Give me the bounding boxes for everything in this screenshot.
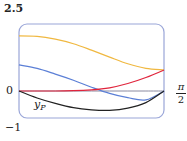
x-tick-numerator: π	[176, 82, 186, 94]
y-tick-2-5: 2.5	[4, 3, 23, 14]
x-tick-pi-over-2: π 2	[176, 82, 186, 105]
curve-label-yp: yP	[34, 99, 46, 112]
y-tick-0: 0	[6, 85, 13, 96]
y-tick-minus-1: −1	[5, 122, 21, 133]
curve-label-sub: P	[40, 103, 45, 112]
series-red-line	[19, 70, 164, 91]
series-blue-line	[19, 65, 164, 100]
chart-plot	[0, 0, 187, 141]
x-tick-denominator: 2	[176, 94, 186, 105]
series-yellow-line	[19, 36, 164, 70]
